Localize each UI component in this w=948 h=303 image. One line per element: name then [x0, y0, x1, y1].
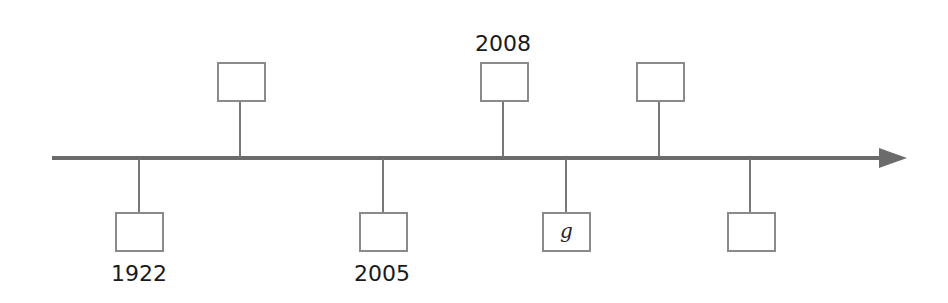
- event-box-g[interactable]: g: [542, 212, 591, 252]
- event-box-2008[interactable]: [480, 62, 529, 102]
- event-box-1922[interactable]: [115, 212, 164, 252]
- event-stem: [382, 159, 384, 212]
- event-stem: [658, 100, 660, 157]
- event-stem: [502, 100, 504, 157]
- year-label-2005: 2005: [342, 263, 422, 285]
- event-box-blank-2[interactable]: [636, 62, 685, 102]
- timeline-diagram: 1922 2005 2008 g: [0, 0, 948, 303]
- event-box-blank-3[interactable]: [727, 212, 776, 252]
- arrow-right-icon: [879, 148, 907, 168]
- timeline-axis: [52, 156, 882, 160]
- event-stem: [749, 159, 751, 212]
- event-box-blank-1[interactable]: [217, 62, 266, 102]
- year-label-1922: 1922: [99, 263, 179, 285]
- event-box-2005[interactable]: [359, 212, 408, 252]
- event-stem: [138, 159, 140, 212]
- event-box-text: g: [560, 221, 573, 241]
- event-stem: [565, 159, 567, 212]
- event-stem: [239, 100, 241, 157]
- year-label-2008: 2008: [463, 33, 543, 55]
